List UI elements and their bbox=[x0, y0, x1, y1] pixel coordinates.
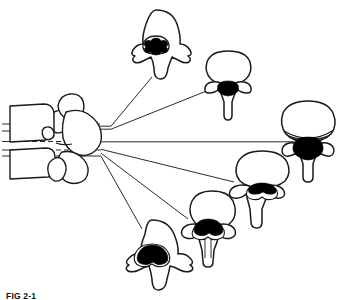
figure-caption: FIG 2-1 bbox=[6, 291, 36, 300]
leader-to-lumbar-lower bbox=[101, 156, 142, 229]
leader-to-cervical-upper bbox=[99, 77, 152, 126]
transverse-process-mass bbox=[62, 110, 101, 155]
lower-thoracic-vertebra-cross-section bbox=[230, 151, 290, 228]
lower-thoracic-body bbox=[236, 151, 289, 188]
thoracolumbar-vertebra-cross-section bbox=[182, 191, 236, 267]
leader-to-thoracic-upper bbox=[99, 88, 214, 129]
upper-thoracic-body bbox=[206, 51, 251, 85]
figure-caption-label: FIG 2-1 bbox=[6, 291, 36, 300]
lateral-vertebral-column bbox=[10, 94, 101, 184]
figure-container: FIG 2-1 bbox=[0, 0, 340, 300]
upper-thoracic-vertebra-cross-section bbox=[205, 51, 251, 120]
leader-to-lumbar-mid bbox=[101, 153, 188, 219]
intervertebral-foramen bbox=[42, 127, 54, 140]
cervical-spinal-cord bbox=[144, 38, 168, 55]
mid-thoracic-spinal-cord bbox=[293, 137, 323, 160]
cervical-vertebra-cross-section bbox=[132, 10, 191, 79]
upper-thoracic-spinal-cord bbox=[217, 81, 238, 96]
leader-to-thoracolumbar bbox=[101, 149, 234, 182]
spinous-process-lobe bbox=[48, 158, 66, 182]
anatomical-diagram bbox=[0, 0, 340, 300]
